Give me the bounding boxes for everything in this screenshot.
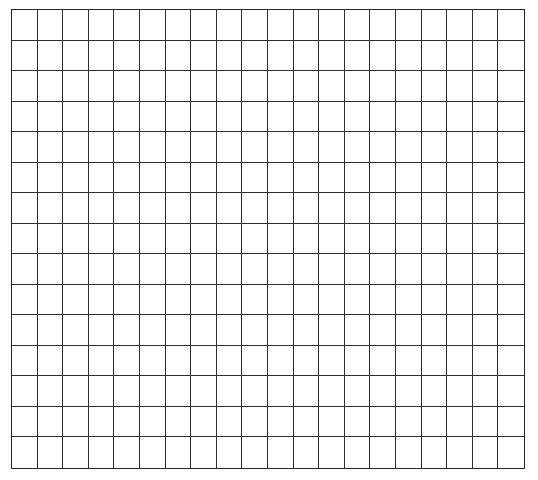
grid-cell — [166, 71, 192, 102]
grid-cell — [473, 163, 499, 194]
grid-cell — [422, 315, 448, 346]
grid-cell — [63, 346, 89, 377]
grid-cell — [242, 163, 268, 194]
grid-cell — [370, 407, 396, 438]
grid-cell — [217, 102, 243, 133]
grid-cell — [345, 254, 371, 285]
grid-cell — [114, 254, 140, 285]
grid-cell — [473, 407, 499, 438]
grid-cell — [447, 132, 473, 163]
grid-cell — [38, 346, 64, 377]
grid-cell — [191, 254, 217, 285]
grid-cell — [396, 10, 422, 41]
grid-cell — [422, 407, 448, 438]
grid-cell — [268, 254, 294, 285]
grid-cell — [498, 346, 524, 377]
grid-cell — [38, 102, 64, 133]
grid-cell — [370, 376, 396, 407]
grid-cell — [191, 224, 217, 255]
grid-cell — [473, 41, 499, 72]
grid-cell — [217, 41, 243, 72]
grid-cell — [422, 346, 448, 377]
grid-cell — [114, 71, 140, 102]
grid-cell — [396, 285, 422, 316]
grid-cell — [268, 285, 294, 316]
grid-cell — [447, 437, 473, 468]
grid-cell — [140, 102, 166, 133]
grid-cell — [345, 163, 371, 194]
grid-cell — [422, 224, 448, 255]
grid-cell — [370, 193, 396, 224]
grid-cell — [140, 132, 166, 163]
grid-cell — [89, 132, 115, 163]
grid-cell — [12, 346, 38, 377]
grid-cell — [12, 315, 38, 346]
grid-cell — [498, 285, 524, 316]
grid-cell — [370, 254, 396, 285]
grid-cell — [447, 193, 473, 224]
grid-cell — [242, 193, 268, 224]
grid-cell — [12, 193, 38, 224]
grid-cell — [217, 132, 243, 163]
grid-cell — [242, 10, 268, 41]
grid-cell — [89, 376, 115, 407]
grid-cell — [473, 376, 499, 407]
grid-cell — [191, 346, 217, 377]
grid-cell — [12, 71, 38, 102]
grid-cell — [217, 315, 243, 346]
grid-cell — [140, 41, 166, 72]
grid-cell — [38, 376, 64, 407]
grid-cell — [345, 132, 371, 163]
grid-cell — [89, 41, 115, 72]
grid-cell — [63, 102, 89, 133]
grid-cell — [89, 437, 115, 468]
grid-cell — [140, 193, 166, 224]
grid-cell — [166, 346, 192, 377]
grid-cell — [447, 285, 473, 316]
grid-cell — [140, 10, 166, 41]
grid-cell — [447, 376, 473, 407]
grid-cell — [217, 346, 243, 377]
grid-cell — [38, 437, 64, 468]
grid-cell — [345, 224, 371, 255]
grid-cell — [38, 254, 64, 285]
grid-cell — [473, 437, 499, 468]
grid-cell — [396, 132, 422, 163]
grid-cell — [166, 254, 192, 285]
grid-cell — [268, 10, 294, 41]
grid-cell — [242, 41, 268, 72]
grid-cell — [447, 315, 473, 346]
grid-cell — [294, 224, 320, 255]
grid-cell — [89, 285, 115, 316]
grid-cell — [242, 102, 268, 133]
grid-cell — [268, 407, 294, 438]
grid-cell — [268, 102, 294, 133]
grid-cell — [345, 346, 371, 377]
grid-cell — [89, 346, 115, 377]
grid-cell — [345, 41, 371, 72]
grid-cell — [114, 102, 140, 133]
grid-cell — [345, 315, 371, 346]
grid-cell — [422, 193, 448, 224]
grid-cell — [12, 41, 38, 72]
grid-cell — [89, 224, 115, 255]
grid-cell — [12, 102, 38, 133]
grid-cell — [370, 102, 396, 133]
grid-cell — [191, 437, 217, 468]
grid-cell — [191, 102, 217, 133]
grid-cell — [370, 224, 396, 255]
grid-cell — [12, 285, 38, 316]
grid-cell — [370, 315, 396, 346]
grid-cell — [370, 163, 396, 194]
grid-cell — [166, 10, 192, 41]
grid-cell — [319, 224, 345, 255]
grid-cell — [447, 407, 473, 438]
grid-cell — [114, 163, 140, 194]
grid-cell — [473, 315, 499, 346]
grid-cell — [268, 376, 294, 407]
grid-cell — [396, 102, 422, 133]
grid-cell — [498, 163, 524, 194]
grid-cell — [89, 407, 115, 438]
grid-cell — [166, 285, 192, 316]
grid-cell — [473, 193, 499, 224]
